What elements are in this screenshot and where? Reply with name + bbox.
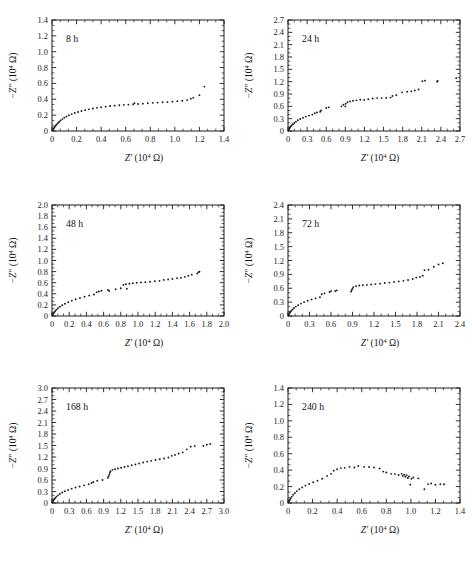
data-point — [305, 485, 307, 487]
data-point — [292, 308, 294, 310]
data-point — [349, 100, 351, 102]
y-tick-label: 0.4 — [274, 466, 285, 475]
nyquist-panel: 00.30.60.91.21.51.82.12.42.73.000.30.60.… — [0, 370, 236, 564]
data-point — [347, 101, 349, 103]
data-point — [430, 483, 432, 485]
data-point — [330, 473, 332, 475]
y-axis-title: −Z″ (104 Ω) — [7, 53, 19, 99]
data-point — [88, 108, 90, 110]
y-tick-label: 1.8 — [38, 430, 48, 439]
data-point — [79, 485, 81, 487]
x-tick-label: 0 — [286, 320, 290, 329]
nyquist-panel: 00.20.40.60.81.01.21.400.20.40.60.81.01.… — [236, 370, 472, 564]
data-point — [157, 102, 159, 104]
data-point — [363, 466, 365, 468]
data-point — [96, 291, 98, 293]
data-point — [63, 117, 65, 119]
data-point — [194, 445, 196, 447]
data-point — [171, 455, 173, 457]
data-point — [105, 106, 107, 108]
data-point — [75, 487, 77, 489]
data-point — [401, 473, 403, 475]
data-point — [117, 468, 119, 470]
data-point — [290, 497, 292, 499]
data-point — [388, 282, 390, 284]
data-point — [68, 114, 70, 116]
data-point — [292, 123, 294, 125]
data-point — [395, 94, 397, 96]
x-tick-label: 0.6 — [321, 135, 331, 144]
data-point — [176, 100, 178, 102]
data-point — [336, 468, 338, 470]
data-point — [192, 97, 194, 99]
data-point — [202, 445, 204, 447]
data-point — [392, 95, 394, 97]
x-tick-label: 0.4 — [96, 135, 107, 144]
data-point — [186, 448, 188, 450]
data-point — [326, 475, 328, 477]
x-tick-label: 0.6 — [98, 320, 108, 329]
data-series — [288, 465, 445, 503]
y-tick-label: 0 — [280, 499, 284, 508]
x-tick-label: 2.7 — [202, 507, 212, 516]
x-tick-label: 1.2 — [359, 135, 369, 144]
x-tick-label: 0.6 — [120, 135, 130, 144]
y-tick-label: 2.7 — [38, 396, 48, 405]
data-point — [348, 466, 350, 468]
panel-time-label: 8 h — [66, 33, 78, 44]
x-tick-label: 0.8 — [145, 135, 155, 144]
data-point — [320, 109, 322, 111]
x-tick-label: 2.4 — [455, 320, 466, 329]
data-point — [110, 470, 112, 472]
x-tick-label: 0.6 — [326, 320, 336, 329]
x-tick-label: 1.8 — [150, 507, 160, 516]
data-series — [52, 86, 206, 132]
y-tick-label: 0.6 — [274, 102, 284, 111]
data-point — [98, 291, 100, 293]
data-point — [142, 103, 144, 105]
data-point — [437, 80, 439, 82]
x-tick-label: 1.2 — [430, 507, 440, 516]
data-point — [373, 467, 375, 469]
data-point — [67, 301, 69, 303]
data-point — [154, 280, 156, 282]
x-tick-label: 1.4 — [455, 507, 466, 516]
data-point — [88, 295, 90, 297]
x-tick-label: 1.8 — [202, 320, 212, 329]
data-point — [344, 105, 346, 107]
data-point — [136, 282, 138, 284]
data-point — [303, 301, 305, 303]
data-point — [404, 476, 406, 478]
data-point — [114, 468, 116, 470]
data-point — [390, 473, 392, 475]
data-point — [120, 467, 122, 469]
y-tick-label: 1.4 — [38, 16, 49, 25]
data-point — [407, 279, 409, 281]
data-point — [415, 277, 417, 279]
y-tick-label: 2.1 — [38, 419, 48, 428]
data-point — [91, 482, 93, 484]
x-tick-label: 0.9 — [98, 507, 108, 516]
data-point — [60, 120, 62, 122]
y-tick-label: 1.2 — [38, 453, 48, 462]
data-point — [100, 106, 102, 108]
data-point — [293, 122, 295, 124]
x-axis-title: Z′ (104 Ω) — [361, 152, 399, 164]
data-point — [305, 116, 307, 118]
y-tick-label: 1.2 — [38, 32, 48, 41]
data-point — [393, 281, 395, 283]
data-point — [325, 107, 327, 109]
x-tick-label: 0.3 — [64, 507, 74, 516]
data-point — [128, 283, 130, 285]
data-point — [385, 97, 387, 99]
x-tick-label: 1.8 — [412, 320, 422, 329]
data-point — [102, 479, 104, 481]
data-point — [330, 290, 332, 292]
data-point — [336, 289, 338, 291]
data-point — [125, 283, 127, 285]
data-point — [184, 276, 186, 278]
x-tick-label: 1.0 — [170, 135, 180, 144]
data-point — [180, 277, 182, 279]
data-point — [57, 494, 59, 496]
data-point — [311, 298, 313, 300]
